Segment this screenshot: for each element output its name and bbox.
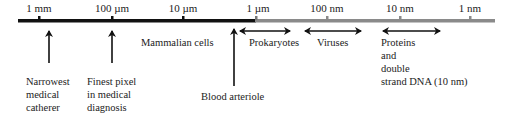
tick-1um xyxy=(255,16,258,20)
label-proteins-line2: and xyxy=(381,49,468,62)
label-proteins-line3: double xyxy=(381,62,468,75)
tick-label-1nm: 1 nm xyxy=(459,2,481,14)
label-proteins-line4: strand DNA (10 nm) xyxy=(381,75,468,88)
tick-10nm xyxy=(399,16,402,20)
tick-1mm xyxy=(38,16,41,20)
label-pixel-line1: Finest pixel xyxy=(87,75,136,88)
tick-label-10um: 10 µm xyxy=(169,2,198,14)
label-blood-arteriole: Blood arteriole xyxy=(201,90,264,103)
tick-100um xyxy=(111,16,114,20)
tick-label-1mm: 1 mm xyxy=(26,2,51,14)
label-proteins-line1: Proteins xyxy=(381,36,468,49)
tick-label-10nm: 10 nm xyxy=(386,2,414,14)
label-catheter-line1: Narrowest xyxy=(26,75,70,88)
label-finest-pixel: Finest pixel in medical diagnosis xyxy=(87,75,136,114)
label-prokaryotes: Prokaryotes xyxy=(249,36,299,49)
scale-bar-micro-segment xyxy=(18,19,256,23)
label-pixel-line3: diagnosis xyxy=(87,101,136,114)
scale-bar xyxy=(18,16,495,23)
label-narrowest-catheter: Narrowest medical catherer xyxy=(26,75,70,114)
label-pixel-line2: in medical xyxy=(87,88,136,101)
label-catheter-line3: catherer xyxy=(26,101,70,114)
tick-100nm xyxy=(326,16,329,20)
tick-label-1um: 1 µm xyxy=(246,2,269,14)
label-viruses: Viruses xyxy=(317,36,348,49)
tick-1nm xyxy=(469,16,472,20)
label-mammalian-cells: Mammalian cells xyxy=(141,36,214,49)
tick-label-100um: 100 µm xyxy=(95,2,129,14)
label-proteins-dna: Proteins and double strand DNA (10 nm) xyxy=(381,36,468,88)
tick-10um xyxy=(182,16,185,20)
label-catheter-line2: medical xyxy=(26,88,70,101)
tick-label-100nm: 100 nm xyxy=(310,2,343,14)
scale-bar-nano-segment xyxy=(255,19,495,23)
